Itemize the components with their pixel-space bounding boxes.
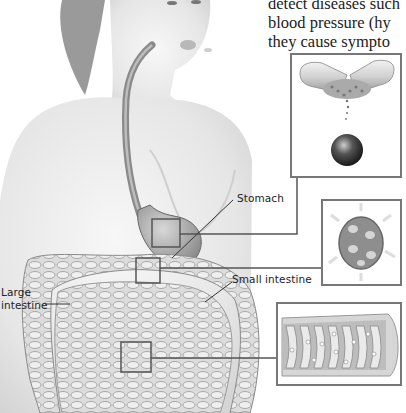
body-text: detect diseases such blood pressure (hy … bbox=[268, 0, 406, 51]
stomach-granule-illustration bbox=[323, 201, 402, 285]
pill-in-motion bbox=[204, 48, 212, 52]
hair bbox=[60, 0, 105, 95]
tablet-sphere bbox=[331, 134, 363, 166]
small-intestine-label: Small intestine bbox=[232, 273, 312, 285]
body-text-line-2: blood pressure (hy bbox=[268, 13, 406, 32]
capsule-dissolving-illustration bbox=[292, 55, 402, 177]
stomach-label: Stomach bbox=[237, 192, 284, 204]
cell-inset bbox=[321, 199, 402, 286]
villi-inset bbox=[276, 302, 402, 386]
intestinal-villi-illustration bbox=[278, 304, 402, 386]
capsule-inset bbox=[290, 53, 402, 178]
large-intestine-label: Large intestine bbox=[1, 286, 48, 312]
large-intestine-label-line-1: Large bbox=[1, 286, 48, 299]
body-text-line-1: detect diseases such bbox=[268, 0, 406, 13]
body-text-line-3: they cause sympto bbox=[268, 32, 406, 51]
large-intestine-label-line-2: intestine bbox=[1, 299, 48, 312]
mouth bbox=[180, 40, 196, 50]
